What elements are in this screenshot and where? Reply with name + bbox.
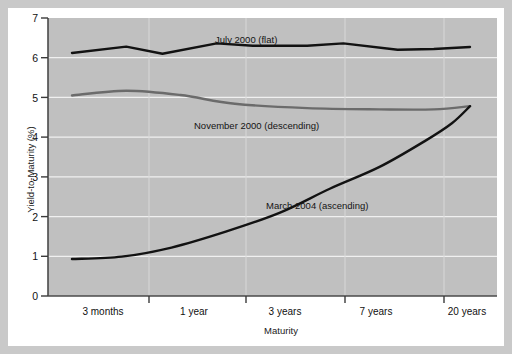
x-tick-label-3-years: 3 years [240, 306, 330, 317]
plot-area-background [48, 18, 497, 296]
y-tick-label-0: 0 [16, 290, 38, 302]
x-tick-label-20-years: 20 years [422, 306, 512, 317]
y-tick-label-7: 7 [16, 12, 38, 24]
x-axis-title: Maturity [56, 325, 506, 336]
yield-curve-plot [8, 8, 504, 346]
y-tick-label-6: 6 [16, 52, 38, 64]
annotation-november-2000: November 2000 (descending) [194, 120, 319, 131]
x-tick-label-7-years: 7 years [331, 306, 421, 317]
x-tick-label-3-months: 3 months [58, 306, 148, 317]
x-axis-ticks [149, 296, 444, 303]
annotation-march-2004: March 2004 (ascending) [266, 200, 368, 211]
chart-card: 0 1 2 3 4 5 6 7 3 months 1 year 3 years … [8, 8, 504, 346]
y-axis-title-wrap: Yield-to-Maturity (%) [12, 68, 30, 268]
y-axis-title: Yield-to-Maturity (%) [25, 75, 36, 265]
y-axis-ticks [41, 18, 48, 296]
chart-figure: 0 1 2 3 4 5 6 7 3 months 1 year 3 years … [0, 0, 512, 354]
x-tick-label-1-year: 1 year [149, 306, 239, 317]
annotation-july-2000: July 2000 (flat) [215, 34, 277, 45]
